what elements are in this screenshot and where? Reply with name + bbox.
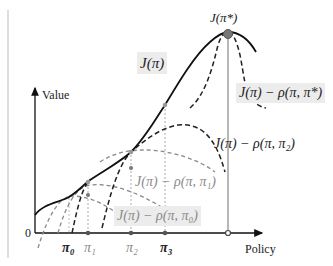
- tick-label-pi0: π₀: [62, 240, 75, 256]
- optimum-marker: [224, 30, 233, 39]
- objective-label: J(π): [137, 52, 167, 74]
- point-pi1-surrogate: [86, 193, 90, 197]
- tick-pi2: [129, 231, 134, 236]
- tick-pi1: [86, 231, 91, 236]
- tick-label-pi3: π₃: [160, 240, 173, 256]
- point-pi2-surrogate: [129, 166, 133, 170]
- policy-improvement-diagram: [0, 0, 333, 266]
- surrogate-star-label: J(π) − ρ(π, π*): [236, 83, 325, 103]
- surrogate-pi1-label: J(π) − ρ(π, π₁): [135, 174, 216, 190]
- optimum-label: J(π*): [210, 10, 237, 26]
- surrogate-pi0-label: J(π) − ρ(π, π₀): [114, 206, 201, 226]
- point-pi1-on-curve: [86, 180, 91, 185]
- origin-label: 0: [25, 226, 31, 241]
- y-axis-label: Value: [42, 88, 69, 103]
- surrogate-pi2-label: J(π) − ρ(π, π₂): [214, 136, 295, 152]
- point-pi2-on-curve: [129, 150, 134, 155]
- tick-optimum: [226, 231, 231, 236]
- tick-label-pi1: π₁: [84, 240, 96, 256]
- x-axis-label: Policy: [245, 242, 276, 257]
- tick-label-pi2: π₂: [126, 240, 138, 256]
- tick-pi3: [163, 231, 168, 236]
- surrogate-pi2-grey-curve: [100, 150, 215, 172]
- point-pi3-on-curve: [163, 103, 168, 108]
